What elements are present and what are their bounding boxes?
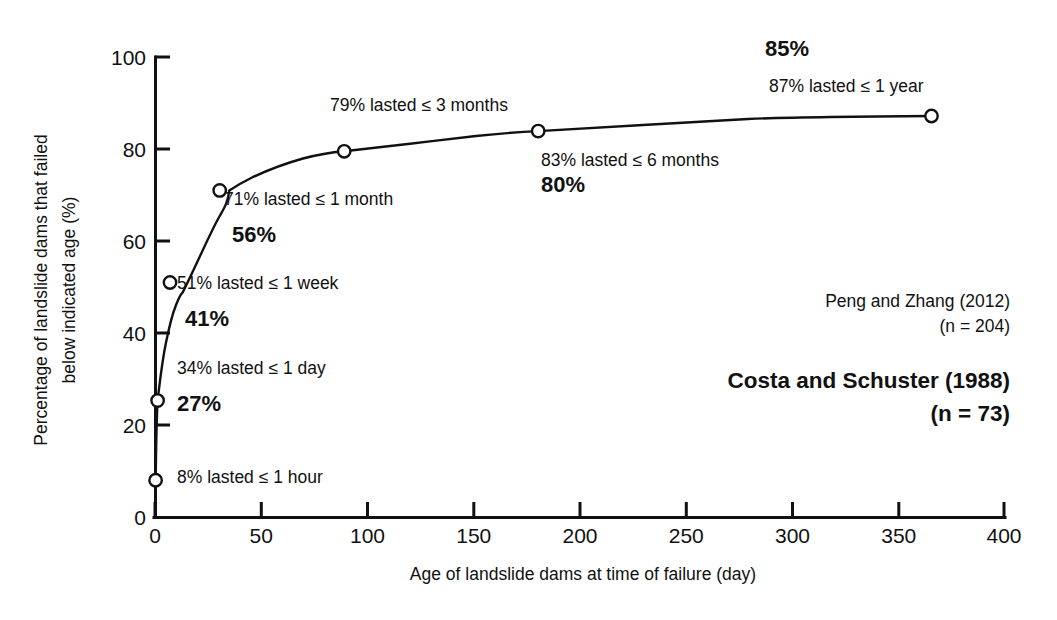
y-tick-label-80: 80 (123, 138, 146, 161)
annotation-6-months: 83% lasted ≤ 6 months (541, 150, 719, 170)
x-axis-ticks (155, 502, 1004, 517)
chart-figure: 100 80 60 40 20 0 0 50 100 150 200 250 (0, 0, 1057, 620)
bold-value-80: 80% (541, 172, 585, 197)
data-point-1-day[interactable] (151, 394, 163, 406)
data-point-1-week[interactable] (164, 276, 176, 288)
x-axis-tick-labels: 0 50 100 150 200 250 300 350 400 (149, 524, 1021, 547)
x-tick-label-350: 350 (881, 524, 916, 547)
y-tick-label-0: 0 (134, 506, 146, 529)
x-tick-label-100: 100 (350, 524, 385, 547)
annotation-1-hour: 8% lasted ≤ 1 hour (177, 467, 323, 487)
citation-secondary-name: Peng and Zhang (2012) (825, 291, 1010, 311)
y-tick-label-60: 60 (123, 230, 146, 253)
annotation-1-week: 51% lasted ≤ 1 week (177, 273, 339, 293)
x-tick-label-0: 0 (149, 524, 161, 547)
citation-primary-sample-size: (n = 73) (931, 401, 1010, 426)
annotation-1-year: 87% lasted ≤ 1 year (769, 76, 924, 96)
x-tick-label-150: 150 (456, 524, 491, 547)
x-axis-title: Age of landslide dams at time of failure… (410, 564, 756, 584)
chart-svg: 100 80 60 40 20 0 0 50 100 150 200 250 (0, 0, 1057, 620)
annotation-3-months: 79% lasted ≤ 3 months (330, 95, 508, 115)
bold-value-56: 56% (232, 222, 276, 247)
y-tick-label-40: 40 (123, 322, 146, 345)
bold-value-85: 85% (765, 36, 809, 61)
citation-secondary-sample-size: (n = 204) (939, 316, 1010, 336)
data-point-6-months[interactable] (532, 125, 544, 137)
y-tick-label-100: 100 (111, 46, 146, 69)
x-tick-label-400: 400 (986, 524, 1021, 547)
citation-block: Peng and Zhang (2012) (n = 204) Costa an… (727, 291, 1010, 426)
y-axis-title-line1: Percentage of landslide dams that failed (31, 134, 51, 445)
data-point-1-hour[interactable] (149, 474, 161, 486)
annotation-1-day: 34% lasted ≤ 1 day (177, 358, 326, 378)
curve-annotations: 8% lasted ≤ 1 hour 34% lasted ≤ 1 day 51… (177, 76, 924, 487)
data-point-3-months[interactable] (338, 145, 350, 157)
bold-value-27: 27% (177, 391, 221, 416)
y-axis-title-line2: below indicated age (%) (59, 197, 79, 384)
citation-primary-name: Costa and Schuster (1988) (727, 368, 1010, 393)
x-tick-label-50: 50 (250, 524, 273, 547)
x-tick-label-300: 300 (775, 524, 810, 547)
x-tick-label-250: 250 (669, 524, 704, 547)
data-point-1-year[interactable] (925, 110, 937, 122)
y-axis-tick-labels: 100 80 60 40 20 0 (111, 46, 146, 529)
y-tick-label-20: 20 (123, 414, 146, 437)
annotation-1-month: 71% lasted ≤ 1 month (224, 189, 393, 209)
bold-value-41: 41% (185, 306, 229, 331)
failure-curve (156, 116, 932, 480)
x-tick-label-200: 200 (562, 524, 597, 547)
